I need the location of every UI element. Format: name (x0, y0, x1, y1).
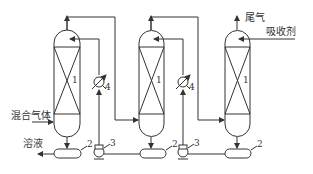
pump-2 (178, 145, 188, 159)
tank-1 (54, 149, 81, 158)
mixed-gas-label: 混合气体 (11, 111, 51, 121)
pump-1 (94, 145, 104, 159)
column-1-number: 1 (72, 76, 78, 85)
tank-1-number: 2 (87, 140, 93, 149)
pump-1-number: 3 (110, 139, 116, 148)
solution-label: 溶液 (23, 139, 43, 149)
cooler-1-number: 4 (105, 83, 111, 92)
tank-3 (225, 149, 251, 158)
cooler-2-number: 4 (189, 83, 195, 92)
column-2-number: 1 (156, 76, 162, 85)
tail-gas-label: 尾气 (245, 13, 265, 23)
column-3-number: 1 (243, 76, 249, 85)
pump-2-number: 3 (194, 139, 200, 148)
tank-2 (140, 149, 166, 158)
tank-2-number: 2 (172, 140, 178, 149)
absorbent-label: 吸收剂 (266, 27, 296, 37)
tank-3-number: 2 (257, 140, 263, 149)
